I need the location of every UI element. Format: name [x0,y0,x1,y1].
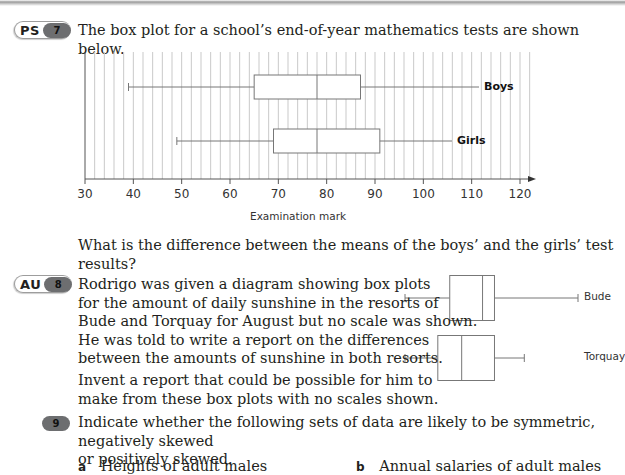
x-tick-label: 50 [174,187,189,201]
series-label-girls: Girls [457,134,486,147]
q8-line: Bude and Torquay for August but no scale… [78,312,477,331]
part-text-a: Heights of adult males [101,458,267,474]
label-bude: Bude [584,290,611,302]
x-tick-label: 80 [319,187,334,201]
x-axis-label: Examination mark [250,210,346,222]
q7-question: What is the difference between the means… [78,236,625,273]
part-text-b: Annual salaries of adult males [379,458,601,474]
q8-line: Rodrigo was given a diagram showing box … [78,275,477,294]
question-badge-8: AU 8 [14,275,72,293]
question-badge-9: 9 [42,414,70,432]
x-tick-label: 110 [460,187,483,201]
part-letter-a: a [78,460,86,474]
series-label-boys: Boys [484,80,514,93]
q8-paragraph-2: Invent a report that could be possible f… [78,371,438,408]
q8-line: between the amounts of sunshine in both … [78,349,477,368]
label-torquay: Torquay [584,350,625,362]
badge-tag-au: AU [15,277,44,292]
q9-part-a: a Heights of adult males [78,457,267,475]
x-tick-label: 100 [412,187,435,201]
x-tick-label: 90 [367,187,382,201]
q8-line: He was told to write a report on the dif… [78,331,477,350]
q9-line: Indicate whether the following sets of d… [78,413,625,450]
x-tick-label: 120 [509,187,532,201]
chart-boxes [129,75,480,153]
x-tick-label: 70 [271,187,286,201]
q9-part-b: b Annual salaries of adult males [356,457,601,475]
x-tick-label: 30 [77,187,92,201]
chart-gridlines [85,52,536,184]
x-tick-label: 40 [126,187,141,201]
q8-line: for the amount of daily sunshine in the … [78,294,477,313]
q8-line: make from these box plots with no scales… [78,390,438,409]
question-number-9: 9 [42,416,70,431]
q8-line: Invent a report that could be possible f… [78,371,438,390]
question-number-8: 8 [44,277,72,292]
x-tick-label: 60 [222,187,237,201]
q8-paragraph-1: Rodrigo was given a diagram showing box … [78,275,477,368]
part-letter-b: b [356,460,365,474]
